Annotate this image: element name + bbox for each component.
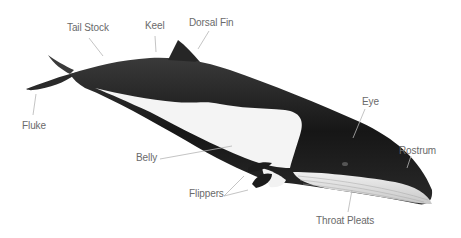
whale-illustration	[0, 0, 461, 238]
label-eye: Eye	[362, 96, 379, 107]
fluke-shape	[26, 72, 78, 90]
whale-diagram: Tail Stock Keel Dorsal Fin Eye Rostrum F…	[0, 0, 461, 238]
eye-shape	[342, 162, 348, 166]
label-flippers: Flippers	[189, 188, 224, 199]
label-keel: Keel	[145, 20, 165, 31]
label-belly: Belly	[136, 152, 157, 163]
label-tail-stock: Tail Stock	[67, 22, 109, 33]
label-rostrum: Rostrum	[399, 145, 436, 156]
label-fluke: Fluke	[22, 120, 46, 131]
label-dorsal-fin: Dorsal Fin	[189, 17, 234, 28]
label-throat-pleats: Throat Pleats	[316, 215, 374, 226]
dorsal-fin-shape	[168, 40, 200, 62]
